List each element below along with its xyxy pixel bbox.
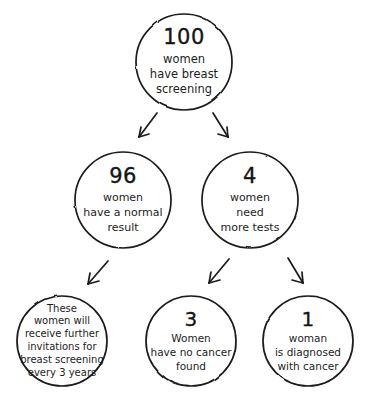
node-circle-normal	[75, 152, 171, 248]
node-circle-nocancer	[146, 296, 236, 386]
arrow-top-to-normal	[139, 113, 157, 137]
diagram-strokes-layer	[0, 0, 371, 402]
arrow-moretests-to-diagnosed	[288, 258, 303, 283]
node-circle-top	[136, 14, 232, 110]
screening-flow-diagram: 100 women have breast screening 96 women…	[0, 0, 371, 402]
node-circle-diagnosed	[263, 296, 353, 386]
arrow-top-to-moretests	[213, 113, 228, 137]
node-circle-invitations	[17, 296, 107, 386]
arrow-moretests-to-nocancer	[209, 259, 229, 283]
arrow-normal-to-invitations	[88, 261, 108, 284]
node-circle-moretests	[202, 152, 298, 248]
